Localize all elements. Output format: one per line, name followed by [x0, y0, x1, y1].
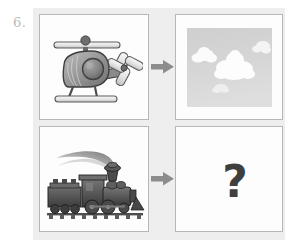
- question-mark-glyph: ?: [222, 160, 248, 204]
- clouds-photo: [187, 28, 272, 107]
- helicopter-illustration: [47, 27, 143, 109]
- steam-locomotive-illustration: [45, 135, 145, 227]
- arrow-right-icon-bottom: [150, 168, 176, 190]
- cell-bottom-right-answer-blank[interactable]: ?: [175, 126, 283, 232]
- worksheet-page: 6.: [0, 0, 301, 246]
- question-number: 6.: [13, 13, 35, 33]
- helicopter-icon: [47, 27, 143, 109]
- cell-bottom-left-train[interactable]: [39, 126, 149, 232]
- train-icon: [45, 135, 145, 227]
- cell-top-right-clouds[interactable]: [175, 14, 283, 120]
- question-mark-placeholder: ?: [176, 127, 283, 232]
- clouds-icon: [187, 28, 272, 107]
- arrow-right-icon-top: [150, 56, 176, 78]
- cell-top-left-helicopter[interactable]: [39, 14, 149, 120]
